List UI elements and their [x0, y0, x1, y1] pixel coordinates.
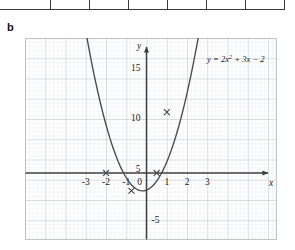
y-tick-label: 15	[131, 63, 141, 73]
table-cell[interactable]	[90, 0, 129, 10]
table-cell[interactable]	[245, 0, 284, 10]
x-tick-label: -2	[102, 177, 110, 187]
table-cell[interactable]	[0, 0, 51, 10]
table-cell[interactable]	[51, 0, 90, 10]
figure-panel: b	[0, 0, 295, 250]
table-row	[0, 0, 285, 10]
x-tick-label: -3	[82, 177, 90, 187]
table-cell[interactable]	[168, 0, 207, 10]
x-tick-label: 2	[185, 177, 190, 187]
equation-rhs: + 3x − 2	[232, 54, 265, 64]
x-tick-label: 0	[137, 177, 142, 187]
table-cell[interactable]	[129, 0, 168, 10]
y-axis-label: y	[136, 41, 142, 51]
equation-label: y = 2x2 + 3x − 2	[206, 54, 265, 64]
table	[0, 0, 285, 10]
grid	[26, 39, 277, 240]
equation-lhs: y = 2x	[206, 54, 229, 64]
y-tick-label: 10	[131, 113, 141, 123]
x-axis-label: x	[268, 178, 274, 188]
answer-table-fragment	[0, 0, 295, 14]
x-tick-label: 1	[164, 177, 169, 187]
y-tick-label: -5	[152, 215, 160, 225]
coordinate-graph: -3 -2 -1 0 1 2 3 15 10 5 -5 x y	[25, 38, 277, 240]
part-label-b: b	[7, 21, 14, 33]
graph-plot: -3 -2 -1 0 1 2 3 15 10 5 -5 x y	[25, 38, 277, 240]
y-tick-label: 5	[136, 164, 141, 174]
table-cell[interactable]	[207, 0, 246, 10]
x-tick-label: 3	[205, 177, 210, 187]
